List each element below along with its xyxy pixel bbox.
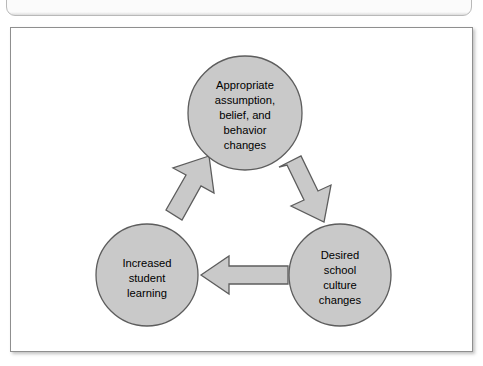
node-label-line: Desired xyxy=(321,249,360,261)
node-label-line: behavior xyxy=(224,124,267,136)
node-label-line: Increased xyxy=(122,257,171,269)
node-label-line: culture xyxy=(323,279,357,291)
arrow-right-to-left xyxy=(201,256,288,294)
node-label-line: changes xyxy=(224,139,267,151)
node-increased-student-learning[interactable]: Increased student learning xyxy=(96,224,198,326)
node-label-line: changes xyxy=(319,294,362,306)
node-label-line: Appropriate xyxy=(216,79,274,91)
node-label-line: student xyxy=(129,272,167,284)
figure-panel: Appropriate assumption, belief, and beha… xyxy=(10,27,473,352)
node-label-line: assumption, xyxy=(215,94,275,106)
figure-caption-strip: Figure —— clipped caption text (illegibl… xyxy=(6,0,472,16)
node-label-line: belief, and xyxy=(219,109,271,121)
caption-strip-shadow xyxy=(7,12,471,15)
node-label-line: learning xyxy=(127,287,167,299)
node-label-line: school xyxy=(324,264,356,276)
arrow-left-to-top xyxy=(166,156,214,220)
node-desired-school-culture[interactable]: Desired school culture changes xyxy=(289,224,391,326)
cycle-diagram: Appropriate assumption, belief, and beha… xyxy=(11,28,474,353)
arrow-top-to-right xyxy=(279,156,331,222)
node-appropriate-changes[interactable]: Appropriate assumption, belief, and beha… xyxy=(188,56,302,170)
